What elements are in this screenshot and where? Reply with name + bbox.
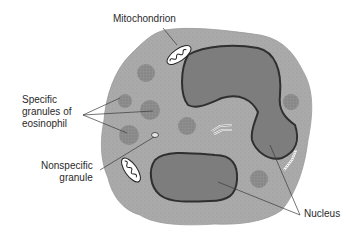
specific-granule bbox=[118, 94, 132, 108]
nonspecific-granule bbox=[152, 133, 159, 138]
specific-granule bbox=[283, 94, 299, 110]
specific-granule bbox=[178, 117, 196, 135]
nucleus-lobe-lower bbox=[151, 153, 237, 202]
specific-granule bbox=[137, 64, 155, 82]
label-specific-granules: Specific granules of eosinophil bbox=[22, 94, 71, 130]
label-nucleus: Nucleus bbox=[304, 208, 340, 220]
label-nonspecific-granule: Nonspecific granule bbox=[41, 160, 93, 184]
specific-granule bbox=[140, 100, 160, 120]
specific-granule bbox=[119, 125, 139, 145]
specific-granule bbox=[250, 170, 268, 188]
label-mitochondrion: Mitochondrion bbox=[113, 13, 176, 25]
